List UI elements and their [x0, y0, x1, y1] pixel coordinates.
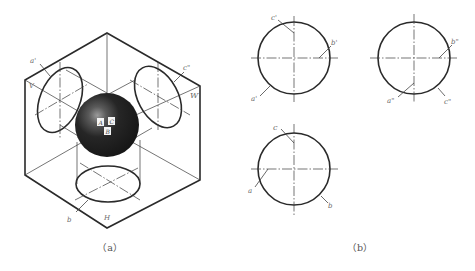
c-double-prime-label: c": [183, 64, 190, 72]
b-leader: [76, 200, 88, 212]
a-label: a: [248, 187, 252, 195]
figure-a-isometric-view: A C B a' V c" W b H （a）: [25, 33, 200, 253]
c-label: c: [273, 123, 278, 132]
a-double-prime-label: a": [387, 97, 394, 105]
front-view: c' b' a': [251, 14, 338, 103]
a-prime-label-b: a': [251, 95, 257, 103]
side-view: b" a" c": [370, 14, 459, 106]
a-prime-label: a': [30, 57, 36, 65]
sphere: [75, 93, 139, 157]
h-plane-label: H: [103, 214, 111, 222]
b-prime-label: b': [331, 39, 337, 47]
b-label: b: [67, 216, 72, 224]
b-double-prime-label: b": [451, 38, 459, 46]
point-C-label: C: [110, 118, 115, 125]
top-view: c a b: [248, 123, 338, 215]
point-A-label: A: [98, 119, 104, 126]
caption-a: （a）: [97, 242, 123, 253]
b-label-top: b: [328, 202, 333, 210]
caption-b: （b）: [347, 242, 373, 253]
figure-b-orthographic-views: c' b' a' b" a" c" c a: [248, 14, 459, 253]
w-plane-label: W: [190, 91, 199, 100]
point-B-label: B: [105, 128, 111, 135]
projection-diagram: A C B a' V c" W b H （a） c' b' a': [0, 0, 475, 271]
v-plane-label: V: [29, 82, 35, 90]
c-double-prime-label-b: c": [444, 98, 451, 106]
c-prime-label: c': [271, 14, 277, 22]
